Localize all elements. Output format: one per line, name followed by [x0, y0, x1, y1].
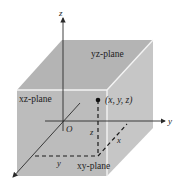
point-label: (x, y, z) [105, 95, 132, 106]
coordinate-box-diagram: z y O yz-plane xz-plane xy-plane (x, y, … [0, 0, 183, 181]
xz-plane-label: xz-plane [19, 94, 52, 104]
yz-plane-label: yz-plane [91, 49, 124, 59]
y-projection-label: y [56, 158, 61, 168]
origin-label: O [66, 124, 73, 134]
y-axis-label: y [167, 116, 172, 126]
z-projection-label: z [89, 127, 94, 137]
x-projection-label: x [116, 135, 121, 145]
xy-plane-label: xy-plane [77, 161, 110, 171]
z-axis-label: z [58, 8, 63, 18]
point-marker [96, 98, 101, 103]
